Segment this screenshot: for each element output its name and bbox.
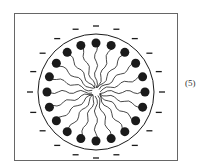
polar-head xyxy=(45,103,54,112)
polar-head xyxy=(138,72,147,81)
polar-head xyxy=(92,137,101,146)
polar-head xyxy=(63,48,72,57)
hydrophobic-tail xyxy=(96,45,111,87)
hydrophobic-tail xyxy=(67,52,94,88)
polar-head xyxy=(52,116,61,125)
polar-head xyxy=(107,134,116,143)
polar-head xyxy=(52,59,61,68)
hydrophobic-tail xyxy=(49,77,92,91)
polar-head xyxy=(92,39,101,48)
micelle-diagram xyxy=(0,0,208,168)
hydrophobic-tail xyxy=(94,96,97,141)
hydrophobic-tail xyxy=(95,43,98,88)
polar-head xyxy=(120,127,129,136)
hydrophobic-tail xyxy=(49,94,92,107)
polar-head xyxy=(141,88,150,97)
polar-head xyxy=(131,116,140,125)
equation-label: (5) xyxy=(185,78,196,88)
polar-head xyxy=(131,59,140,68)
hydrophobic-tail xyxy=(100,91,145,94)
polar-head xyxy=(107,41,116,50)
polar-head xyxy=(45,72,54,81)
polar-head xyxy=(138,103,147,112)
hydrophobic-tail xyxy=(98,96,111,139)
polar-head xyxy=(76,41,85,50)
polar-head xyxy=(43,88,52,97)
polar-head xyxy=(63,127,72,136)
hydrophobic-tail xyxy=(47,90,92,93)
polar-head xyxy=(76,134,85,143)
hydrophobic-tail xyxy=(81,95,94,138)
polar-head xyxy=(120,48,129,57)
